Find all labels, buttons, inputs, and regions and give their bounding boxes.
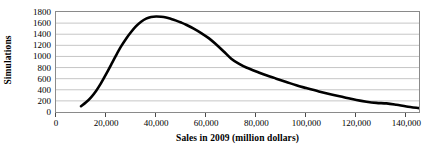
y-axis-title: Simulations	[0, 0, 16, 120]
y-axis-tick-labels: 020040060080010001200140016001800	[16, 0, 53, 120]
y-tick-label: 800	[38, 63, 52, 72]
x-tick-label: 40,000	[144, 118, 169, 129]
x-tick-mark	[255, 113, 256, 117]
y-tick-label: 0	[47, 108, 52, 117]
y-tick-label: 1400	[33, 30, 51, 39]
y-tick-label: 1000	[33, 52, 51, 61]
y-tick-label: 1800	[33, 8, 51, 17]
x-tick-mark	[305, 113, 306, 117]
y-tick-label: 600	[38, 74, 52, 83]
x-axis-tick-labels: 020,00040,00060,00080,000100,000120,0001…	[0, 118, 432, 132]
x-tick-label: 20,000	[94, 118, 119, 129]
y-tick-label: 200	[38, 96, 52, 105]
x-tick-label: 100,000	[292, 118, 321, 129]
data-curve-simulations	[81, 16, 419, 108]
x-tick-label: 0	[54, 118, 59, 129]
x-tick-mark	[405, 113, 406, 117]
x-tick-mark	[55, 113, 56, 117]
y-axis-title-text: Simulations	[3, 35, 13, 84]
x-tick-label: 60,000	[194, 118, 219, 129]
y-tick-label: 1600	[33, 19, 51, 28]
x-tick-mark	[205, 113, 206, 117]
y-tick-label: 1200	[33, 41, 51, 50]
x-tick-label: 80,000	[244, 118, 269, 129]
x-tick-label: 140,000	[392, 118, 421, 129]
x-tick-mark	[155, 113, 156, 117]
plot-area	[55, 11, 420, 113]
y-tick-label: 400	[38, 85, 52, 94]
x-tick-mark	[105, 113, 106, 117]
x-tick-label: 120,000	[342, 118, 371, 129]
plot-svg	[56, 12, 419, 112]
x-tick-mark	[355, 113, 356, 117]
chart-figure: Simulations 0200400600800100012001400160…	[0, 0, 432, 154]
x-axis-title: Sales in 2009 (million dollars)	[55, 133, 420, 143]
